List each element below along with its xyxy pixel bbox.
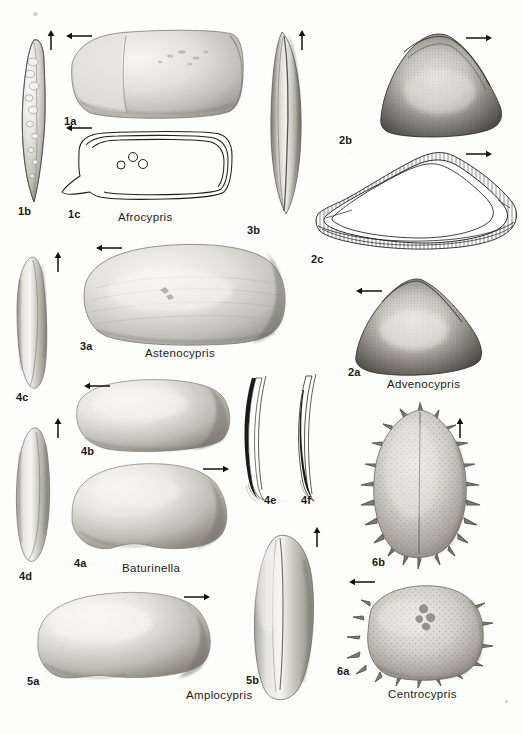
orientation-arrow-left-2a bbox=[356, 286, 382, 296]
figure-3a-drawing bbox=[84, 244, 285, 345]
orientation-arrow-up-1b bbox=[46, 30, 56, 50]
orientation-arrow-up-4d bbox=[53, 418, 63, 438]
figure-label-3a: 3a bbox=[80, 341, 93, 352]
figure-label-3b: 3b bbox=[247, 225, 260, 236]
paper-speck bbox=[33, 12, 38, 16]
figure-label-1c: 1c bbox=[68, 209, 81, 220]
genus-name-amplocypris: Amplocypris bbox=[186, 690, 252, 702]
figure-5b-drawing bbox=[254, 535, 313, 699]
orientation-arrow-left-6a bbox=[349, 577, 375, 587]
genus-name-centrocypris: Centrocypris bbox=[388, 689, 457, 701]
figure-label-5b: 5b bbox=[246, 675, 259, 686]
genus-name-advenocypris: Advenocypris bbox=[387, 379, 460, 391]
figure-2c-drawing bbox=[316, 153, 517, 250]
figure-label-4b: 4b bbox=[81, 446, 94, 457]
figure-label-6a: 6a bbox=[337, 666, 350, 677]
illustration-plate: 1a 1b 1c 2b 2c 2a 3b 3a 4c 4b 4a 4d 4e 4… bbox=[0, 0, 522, 735]
figure-label-4f: 4f bbox=[301, 495, 311, 506]
orientation-arrow-right-4a bbox=[203, 464, 229, 474]
figure-1a-drawing bbox=[72, 30, 244, 118]
orientation-arrow-right-5a bbox=[184, 592, 210, 602]
figure-4e-drawing bbox=[245, 376, 266, 501]
figure-1c-drawing bbox=[62, 132, 232, 200]
figure-2b-drawing bbox=[381, 34, 502, 137]
figure-3b-drawing bbox=[271, 32, 301, 214]
figure-label-4c: 4c bbox=[16, 392, 29, 403]
orientation-arrow-right-2b bbox=[466, 33, 492, 43]
figure-4c-drawing bbox=[17, 257, 47, 388]
orientation-arrow-up-5b bbox=[312, 527, 322, 547]
figure-label-4e: 4e bbox=[264, 495, 277, 506]
orientation-arrow-up-4c bbox=[53, 252, 63, 272]
figure-1b-drawing bbox=[22, 40, 45, 202]
genus-name-baturinella: Baturinella bbox=[122, 563, 180, 575]
figure-4a-drawing bbox=[72, 464, 227, 549]
genus-name-astenocypris: Astenocypris bbox=[145, 348, 215, 360]
orientation-arrow-up-6b bbox=[455, 418, 465, 438]
figure-label-2c: 2c bbox=[311, 254, 324, 265]
figure-label-6b: 6b bbox=[372, 557, 385, 568]
specimen-artwork bbox=[0, 0, 522, 735]
figure-5a-drawing bbox=[38, 592, 210, 678]
orientation-arrow-up-3b bbox=[297, 30, 307, 50]
paper-speck bbox=[505, 700, 508, 703]
orientation-arrow-left-1a bbox=[66, 31, 92, 41]
orientation-arrow-left-3a bbox=[96, 243, 122, 253]
figure-4d-drawing bbox=[16, 428, 49, 562]
genus-name-afrocypris: Afrocypris bbox=[118, 212, 173, 224]
figure-label-1a: 1a bbox=[64, 116, 77, 127]
figure-label-5a: 5a bbox=[27, 676, 40, 687]
figure-label-4d: 4d bbox=[19, 571, 32, 582]
figure-6a-drawing bbox=[347, 586, 493, 688]
figure-label-2a: 2a bbox=[348, 367, 361, 378]
figure-4f-drawing bbox=[299, 374, 316, 501]
figure-label-2b: 2b bbox=[339, 135, 352, 146]
figure-label-4a: 4a bbox=[74, 558, 87, 569]
orientation-arrow-right-2c bbox=[466, 149, 492, 159]
figure-label-1b: 1b bbox=[18, 206, 31, 217]
orientation-arrow-left-4b bbox=[84, 381, 110, 391]
